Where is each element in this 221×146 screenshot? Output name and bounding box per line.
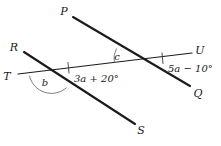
point-label-p: P [59,5,68,18]
angle-label-b: b [42,77,48,88]
line-rs [24,52,135,124]
expression-label-group: 3a + 20° 5a − 10° [74,63,213,84]
point-label-r: R [9,41,18,54]
angle-label-c: c [114,51,120,62]
geometry-figure: P R T U Q S c b 3a + 20° 5a − 10° [0,0,221,146]
geometry-canvas: P R T U Q S c b 3a + 20° 5a − 10° [0,0,221,146]
point-label-s: S [137,124,145,137]
angle-expression-5a-minus-10: 5a − 10° [168,63,213,74]
tick-mark-left [68,63,69,74]
tick-mark-right [162,53,163,64]
point-label-q: Q [193,87,202,100]
line-group [18,17,192,124]
point-label-t: T [3,70,12,83]
point-label-u: U [195,44,205,57]
angle-expression-3a-plus-20: 3a + 20° [74,73,119,84]
